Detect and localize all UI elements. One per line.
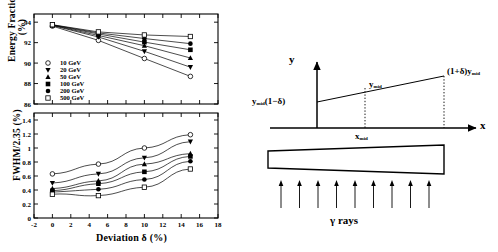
wedge-shape xyxy=(268,145,444,174)
gamma-ray-arrowhead xyxy=(334,180,339,186)
data-point xyxy=(188,132,193,137)
y-tick-label: 0.8 xyxy=(8,159,31,167)
diagram-x-axis-label: x xyxy=(480,119,486,131)
x-tick-label: 14 xyxy=(176,221,186,229)
gamma-ray-arrows xyxy=(279,180,432,208)
chart-legend: 10 GeV20 GeV50 GeV100 GeV200 GeV500 GeV xyxy=(45,59,84,101)
gamma-rays-label: γ rays xyxy=(330,214,358,226)
legend-marker xyxy=(46,82,51,87)
data-point xyxy=(142,33,146,37)
legend-marker xyxy=(45,68,50,73)
y-tick-label: 0 xyxy=(8,215,31,223)
x-tick-label: 18 xyxy=(213,221,223,229)
data-point xyxy=(96,187,101,192)
gamma-ray-arrowhead xyxy=(371,180,376,186)
legend-label: 200 GeV xyxy=(60,87,85,94)
data-point xyxy=(50,172,55,177)
data-point xyxy=(188,65,193,70)
x-tick-label: 16 xyxy=(195,221,205,229)
bottom-chart-series xyxy=(50,132,193,197)
x-tick-label: 6 xyxy=(103,221,113,229)
x-tick-label: 12 xyxy=(158,221,168,229)
data-point xyxy=(142,56,147,61)
y-tick-label: 0.2 xyxy=(8,201,31,209)
data-point xyxy=(142,185,146,189)
data-point xyxy=(96,162,101,167)
y-tick-label: 92 xyxy=(8,39,31,47)
x-tick-label: 8 xyxy=(121,221,131,229)
data-point xyxy=(188,34,192,38)
legend-label: 10 GeV xyxy=(60,59,81,66)
diagram-svg xyxy=(248,0,498,252)
y-tick-label: 94 xyxy=(8,19,31,27)
bottom-chart-ticks xyxy=(34,113,218,218)
legend-marker xyxy=(46,96,50,100)
figure-root: Energy Fraction (%) FWHM/2.35 (%) Deviat… xyxy=(0,0,498,252)
y-tick-label: 86 xyxy=(8,101,31,109)
legend-marker xyxy=(45,74,50,79)
data-point xyxy=(142,177,147,182)
gamma-ray-arrowhead xyxy=(427,180,432,186)
data-point xyxy=(50,192,54,196)
gamma-ray-arrowhead xyxy=(408,180,413,186)
data-point xyxy=(96,193,100,197)
data-point xyxy=(96,30,100,34)
data-point xyxy=(188,167,192,171)
gamma-ray-arrowhead xyxy=(297,180,302,186)
y-tick-label: 1.2 xyxy=(8,131,31,139)
data-point xyxy=(142,170,147,175)
data-point xyxy=(50,181,55,186)
diagram-y-axis-label: y xyxy=(289,53,295,65)
legend-label: 500 GeV xyxy=(60,94,85,101)
plots-svg: 10 GeV20 GeV50 GeV100 GeV200 GeV500 GeV xyxy=(0,0,248,252)
y-tick-label: 88 xyxy=(8,80,31,88)
x-tick-label: 0 xyxy=(47,221,57,229)
gamma-ray-arrowhead xyxy=(353,180,358,186)
data-point xyxy=(188,41,193,46)
left-plots-panel: Energy Fraction (%) FWHM/2.35 (%) Deviat… xyxy=(0,0,248,252)
gamma-ray-arrowhead xyxy=(279,180,284,186)
data-point xyxy=(188,154,193,159)
x-tick-label: 4 xyxy=(84,221,94,229)
label-y-mid: ymid xyxy=(369,79,382,89)
gamma-ray-arrowhead xyxy=(390,180,395,186)
bottom-chart-frame xyxy=(34,113,218,218)
top-chart-y-axis-title: Energy Fraction (%) xyxy=(7,0,27,65)
label-y-mid-minus: ymid(1−δ) xyxy=(252,96,285,106)
y-tick-label: 90 xyxy=(8,60,31,68)
y-tick-label: 0.6 xyxy=(8,173,31,181)
gamma-ray-arrowhead xyxy=(316,180,321,186)
bottom-chart-x-axis-title: Deviation δ (%) xyxy=(96,232,167,243)
legend-label: 100 GeV xyxy=(60,80,85,87)
y-tick-label: 0.4 xyxy=(8,187,31,195)
wedge-diagram-panel: y x ymid(1−δ) ymid (1+δ)ymid xmid γ rays xyxy=(248,0,498,252)
data-point xyxy=(50,23,54,27)
data-point xyxy=(188,47,193,52)
label-y-mid-plus: (1+δ)ymid xyxy=(447,66,480,76)
data-point xyxy=(188,159,193,164)
legend-marker xyxy=(46,61,51,66)
data-point xyxy=(96,181,101,186)
data-point xyxy=(188,74,193,79)
x-tick-label: 2 xyxy=(66,221,76,229)
legend-label: 20 GeV xyxy=(60,66,81,73)
x-tick-label: 10 xyxy=(139,221,149,229)
data-point xyxy=(142,146,147,151)
y-tick-label: 1.4 xyxy=(8,117,31,125)
legend-marker xyxy=(46,89,51,94)
y-tick-label: 1 xyxy=(8,145,31,153)
legend-label: 50 GeV xyxy=(60,73,81,80)
label-x-mid: xmid xyxy=(355,131,368,141)
